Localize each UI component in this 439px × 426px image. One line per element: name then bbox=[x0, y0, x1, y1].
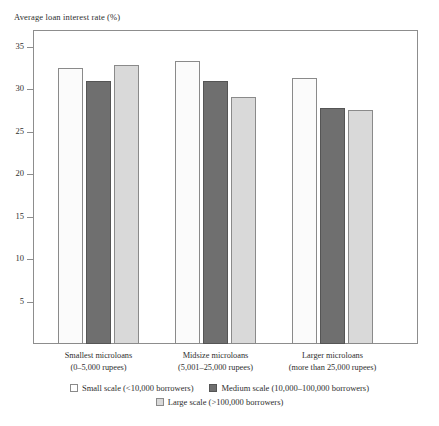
bar-medium-3 bbox=[320, 108, 345, 344]
y-axis-tick-label: 10 bbox=[0, 254, 24, 263]
legend-item-label: Medium scale (10,000–100,000 borrowers) bbox=[221, 383, 369, 393]
bar-medium-2 bbox=[203, 81, 228, 344]
legend-item-large[interactable]: Large scale (>100,000 borrowers) bbox=[156, 397, 284, 407]
bar-large-1 bbox=[114, 65, 139, 344]
chart-legend: Small scale (<10,000 borrowers)Medium sc… bbox=[0, 383, 439, 411]
y-axis-tick-label: 20 bbox=[0, 169, 24, 178]
legend-swatch-small-icon bbox=[70, 384, 78, 392]
legend-swatch-medium-icon bbox=[209, 384, 217, 392]
y-axis-tick-label: 35 bbox=[0, 42, 24, 51]
plot-area bbox=[33, 30, 418, 344]
legend-item-label: Small scale (<10,000 borrowers) bbox=[82, 383, 194, 393]
legend-item-medium[interactable]: Medium scale (10,000–100,000 borrowers) bbox=[209, 383, 369, 393]
category-label-line1: Larger microloans bbox=[258, 350, 408, 362]
y-axis-tick-label: 15 bbox=[0, 212, 24, 221]
y-axis-tick-label: 30 bbox=[0, 84, 24, 93]
bar-small-3 bbox=[292, 78, 317, 344]
y-axis-tick-label: 25 bbox=[0, 127, 24, 136]
legend-item-label: Large scale (>100,000 borrowers) bbox=[168, 397, 284, 407]
chart-axis-title: Average loan interest rate (%) bbox=[14, 12, 120, 22]
legend-swatch-large-icon bbox=[156, 398, 164, 406]
legend-row-secondary: Large scale (>100,000 borrowers) bbox=[0, 397, 439, 407]
bar-large-2 bbox=[231, 97, 256, 344]
category-label-line2: (more than 25,000 rupees) bbox=[258, 362, 408, 374]
bar-medium-1 bbox=[86, 81, 111, 344]
x-axis-category-label-3: Larger microloans(more than 25,000 rupee… bbox=[258, 350, 408, 373]
bar-small-1 bbox=[58, 68, 83, 344]
bar-large-3 bbox=[348, 110, 373, 344]
legend-row-primary: Small scale (<10,000 borrowers)Medium sc… bbox=[0, 383, 439, 393]
bar-small-2 bbox=[175, 61, 200, 344]
y-axis-tick-label: 5 bbox=[0, 297, 24, 306]
chart-figure: Average loan interest rate (%) 353025201… bbox=[0, 0, 439, 426]
legend-item-small[interactable]: Small scale (<10,000 borrowers) bbox=[70, 383, 194, 393]
